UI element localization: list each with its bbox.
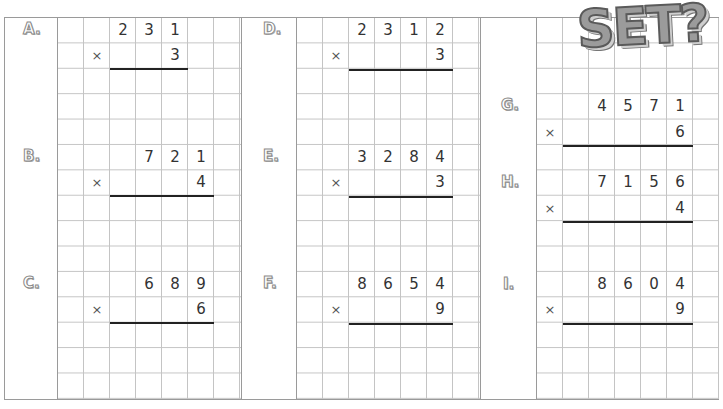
digit: 1 (188, 145, 214, 170)
label-column-3 (481, 18, 537, 399)
digit: 2 (162, 145, 188, 170)
digit: 7 (136, 145, 162, 170)
digit: 4 (427, 272, 453, 297)
label-column-2 (242, 18, 297, 399)
digit: 7 (641, 94, 667, 119)
digit: 8 (349, 272, 375, 297)
answer-line (110, 68, 188, 70)
digit: 8 (589, 272, 615, 297)
digit: 4 (667, 196, 693, 221)
grid-panel-2 (297, 18, 481, 399)
times-sign: × (323, 297, 349, 322)
digit: 6 (136, 272, 162, 297)
digit: 6 (667, 120, 693, 145)
digit: 4 (427, 145, 453, 170)
digit: 8 (162, 272, 188, 297)
answer-line (349, 323, 453, 325)
digit: 7 (589, 170, 615, 195)
label-column-1 (5, 18, 58, 399)
times-sign: × (84, 297, 110, 322)
worksheet: A. 2 3 1 × 3 B. 7 2 1 × 4 C. 6 8 9 × 6 D… (4, 17, 719, 400)
digit: 3 (427, 43, 453, 68)
digit: 4 (667, 272, 693, 297)
digit: 3 (162, 43, 188, 68)
digit: 9 (188, 272, 214, 297)
digit: 5 (615, 94, 641, 119)
digit: 5 (641, 170, 667, 195)
digit: 8 (401, 145, 427, 170)
digit: 1 (667, 94, 693, 119)
problem-label: G. (501, 96, 519, 114)
problem-label: H. (501, 173, 519, 191)
answer-line (110, 195, 214, 197)
digit: 9 (427, 297, 453, 322)
answer-line (563, 323, 693, 325)
digit: 3 (136, 18, 162, 43)
problem-label: C. (23, 274, 40, 292)
digit: 3 (375, 18, 401, 43)
digit: 4 (188, 170, 214, 195)
answer-line (110, 322, 214, 324)
digit: 0 (641, 272, 667, 297)
digit: 4 (589, 94, 615, 119)
times-sign: × (537, 297, 563, 322)
times-sign: × (84, 43, 110, 68)
problem-label: D. (263, 20, 281, 38)
digit: 1 (615, 170, 641, 195)
digit: 6 (615, 272, 641, 297)
digit: 2 (427, 18, 453, 43)
digit: 3 (427, 170, 453, 195)
digit: 6 (667, 170, 693, 195)
digit: 2 (375, 145, 401, 170)
problem-label: B. (23, 147, 40, 165)
logo-text: SET? (576, 0, 710, 59)
times-sign: × (537, 120, 563, 145)
digit: 6 (188, 297, 214, 322)
digit: 6 (375, 272, 401, 297)
times-sign: × (84, 170, 110, 195)
digit: 1 (162, 18, 188, 43)
digit: 2 (349, 18, 375, 43)
digit: 9 (667, 297, 693, 322)
grid-panel-1 (58, 18, 242, 399)
times-sign: × (323, 43, 349, 68)
times-sign: × (323, 170, 349, 195)
answer-line (563, 221, 693, 223)
set-logo: SET? (571, 0, 721, 60)
problem-label: A. (23, 20, 41, 38)
digit: 1 (401, 18, 427, 43)
answer-line (349, 196, 453, 198)
digit: 2 (110, 18, 136, 43)
problem-label: I. (503, 275, 514, 293)
answer-line (563, 145, 693, 147)
digit: 3 (349, 145, 375, 170)
answer-line (349, 69, 453, 71)
problem-label: E. (263, 147, 279, 165)
problem-label: F. (263, 274, 277, 292)
digit: 5 (401, 272, 427, 297)
times-sign: × (537, 196, 563, 221)
